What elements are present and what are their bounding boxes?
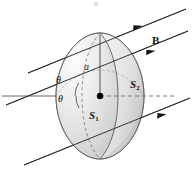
center-dot — [97, 93, 103, 99]
surface-s2-label: S2 — [130, 79, 140, 90]
surface-s2-subscript: 2 — [136, 84, 139, 91]
field-arrow-middle — [146, 49, 156, 55]
radius-label: a — [84, 62, 89, 72]
physics-figure: B a S1 S2 θ θ — [0, 0, 193, 181]
magnetic-field-label: B — [152, 35, 159, 46]
angle-theta-lower-label: θ — [58, 94, 63, 104]
figure-canvas — [0, 0, 193, 181]
field-arrow-bottom — [157, 113, 167, 119]
surface-s1-subscript: 1 — [95, 115, 98, 122]
surface-s1-label: S1 — [89, 110, 99, 121]
field-arrow-top — [133, 25, 143, 31]
angle-theta-upper-label: θ — [56, 75, 61, 85]
